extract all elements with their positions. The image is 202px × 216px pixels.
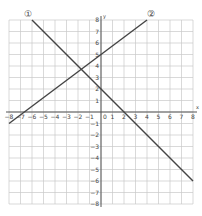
origin-label: 0 bbox=[103, 113, 107, 120]
y-tick-label: −1 bbox=[90, 120, 99, 127]
x-tick-label: 3 bbox=[134, 113, 138, 120]
x-tick-label: 4 bbox=[145, 113, 149, 120]
x-tick-label: −6 bbox=[28, 113, 37, 120]
y-tick-label: −8 bbox=[90, 200, 99, 207]
y-tick-label: 4 bbox=[95, 62, 99, 69]
y-tick-label: −7 bbox=[90, 189, 99, 196]
y-axis-label: y bbox=[103, 13, 106, 20]
y-tick-label: −5 bbox=[90, 166, 99, 173]
x-tick-label: 6 bbox=[168, 113, 172, 120]
series-label-2: ② bbox=[147, 9, 155, 19]
x-tick-label: −8 bbox=[5, 113, 14, 120]
y-tick-label: −3 bbox=[90, 143, 99, 150]
x-tick-label: −2 bbox=[74, 113, 83, 120]
x-tick-label: 5 bbox=[157, 113, 161, 120]
x-axis-label: x bbox=[196, 104, 199, 110]
coordinate-graph: xy0−8−7−6−5−4−3−2−11234567887654321−1−2−… bbox=[0, 0, 202, 216]
x-tick-label: 7 bbox=[180, 113, 184, 120]
x-tick-label: 8 bbox=[191, 113, 195, 120]
y-tick-label: −2 bbox=[90, 131, 99, 138]
y-tick-label: 8 bbox=[95, 16, 99, 23]
y-tick-label: 6 bbox=[95, 39, 99, 46]
x-tick-label: −5 bbox=[39, 113, 48, 120]
y-tick-label: 1 bbox=[95, 97, 99, 104]
y-tick-label: 7 bbox=[95, 28, 99, 35]
y-tick-label: −4 bbox=[90, 154, 99, 161]
x-tick-label: −3 bbox=[62, 113, 71, 120]
x-tick-label: −4 bbox=[51, 113, 60, 120]
graph-svg: xy0−8−7−6−5−4−3−2−11234567887654321−1−2−… bbox=[0, 0, 202, 216]
x-tick-label: 1 bbox=[111, 113, 115, 120]
y-tick-label: −6 bbox=[90, 177, 99, 184]
series-label-1: ① bbox=[24, 9, 32, 19]
y-tick-label: 3 bbox=[95, 74, 99, 81]
